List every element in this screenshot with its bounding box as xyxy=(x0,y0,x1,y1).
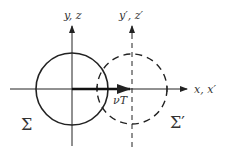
frames-diagram: y, z y′, z′ x, x′ νT Σ Σ′ xyxy=(0,0,227,152)
displacement-label: νT xyxy=(113,94,129,107)
x-axis-label: x, x′ xyxy=(194,83,216,96)
frame-sigma-label: Σ xyxy=(21,115,32,134)
frame-sigma-prime-label: Σ′ xyxy=(170,113,185,132)
y-prime-axis-label: y′, z′ xyxy=(118,9,144,22)
y-axis-label: y, z xyxy=(63,9,82,22)
